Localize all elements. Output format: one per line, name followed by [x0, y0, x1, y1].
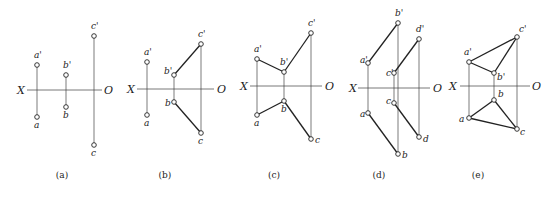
- projection-figure: XOa'ab'bc'c(a)XOa'ab'bc'c(b)XOa'ab'bc'c(…: [0, 0, 547, 197]
- point-label: c': [386, 68, 394, 78]
- edge-line: [284, 101, 311, 139]
- point-label: a': [254, 44, 262, 54]
- point-label: b': [497, 72, 505, 82]
- point-marker: [282, 99, 287, 104]
- point-marker: [396, 21, 401, 26]
- point-marker: [64, 73, 69, 78]
- axis-label-x: X: [239, 80, 249, 93]
- point-label: a': [34, 50, 42, 60]
- point-marker: [64, 105, 69, 110]
- point-marker: [492, 71, 497, 76]
- axis-label-x: X: [126, 83, 136, 96]
- point-label: c: [198, 136, 203, 146]
- point-marker: [515, 35, 520, 40]
- point-marker: [145, 113, 150, 118]
- edge-line: [174, 44, 201, 75]
- edge-line: [368, 113, 398, 154]
- point-marker: [145, 60, 150, 65]
- edge-line: [368, 23, 398, 63]
- point-marker: [35, 63, 40, 68]
- point-marker: [366, 111, 371, 116]
- point-label: c': [519, 24, 527, 34]
- edge-line: [257, 101, 284, 115]
- point-label: c': [308, 18, 316, 28]
- edge-line: [469, 62, 494, 73]
- axis-label-o: O: [217, 83, 226, 96]
- point-label: c: [520, 127, 525, 137]
- point-marker: [282, 70, 287, 75]
- point-marker: [35, 115, 40, 120]
- point-marker: [199, 131, 204, 136]
- point-label: a': [464, 47, 472, 57]
- panel-caption: (a): [56, 170, 68, 180]
- edge-line: [174, 102, 201, 133]
- panel-caption: (b): [159, 170, 172, 180]
- point-label: c: [91, 148, 96, 158]
- point-marker: [255, 57, 260, 62]
- point-marker: [199, 42, 204, 47]
- panel-c: XOa'ab'bc'c(c): [239, 18, 334, 180]
- point-label: d: [423, 134, 429, 144]
- panel-caption: (d): [373, 170, 386, 180]
- point-marker: [172, 100, 177, 105]
- edge-line: [469, 100, 494, 118]
- point-label: c': [91, 21, 99, 31]
- axis-label-x: X: [448, 80, 458, 93]
- point-label: b: [402, 150, 408, 160]
- point-label: a: [34, 120, 39, 130]
- point-label: d': [416, 24, 424, 34]
- point-label: b': [164, 66, 172, 76]
- point-label: a': [144, 47, 152, 57]
- point-label: b: [63, 110, 69, 120]
- point-label: c: [315, 135, 320, 145]
- panel-e: XOa'ab'bc'c(e): [448, 24, 541, 180]
- point-marker: [92, 143, 97, 148]
- point-label: b: [498, 89, 504, 99]
- point-marker: [92, 34, 97, 39]
- point-label: a: [144, 118, 149, 128]
- point-marker: [396, 152, 401, 157]
- point-label: c': [198, 29, 206, 39]
- point-label: b': [63, 60, 71, 70]
- panel-caption: (e): [472, 170, 484, 180]
- point-label: a: [459, 114, 464, 124]
- point-marker: [467, 60, 472, 65]
- panel-d: XOa'ab'bc'cd'd(d): [348, 8, 442, 180]
- panel-b: XOa'ab'bc'c(b): [126, 29, 226, 180]
- panel-a: XOa'ab'bc'c(a): [16, 21, 113, 180]
- point-label: a: [254, 118, 259, 128]
- axis-label-o: O: [325, 80, 334, 93]
- axis-label-o: O: [433, 82, 442, 95]
- point-marker: [309, 31, 314, 36]
- point-label: b: [281, 104, 287, 114]
- point-label: c: [386, 96, 391, 106]
- point-marker: [467, 116, 472, 121]
- point-marker: [172, 73, 177, 78]
- axis-label-x: X: [16, 84, 26, 97]
- axis-label-o: O: [532, 80, 541, 93]
- point-label: a': [360, 55, 368, 65]
- point-marker: [392, 101, 397, 106]
- point-marker: [515, 127, 520, 132]
- point-label: a: [360, 109, 365, 119]
- axis-label-x: X: [348, 82, 358, 95]
- point-marker: [255, 113, 260, 118]
- point-label: b: [165, 98, 171, 108]
- point-marker: [309, 137, 314, 142]
- edge-line: [469, 37, 517, 62]
- point-marker: [492, 98, 497, 103]
- point-label: b': [280, 57, 288, 67]
- point-label: b': [395, 8, 403, 18]
- point-marker: [417, 135, 422, 140]
- point-marker: [417, 37, 422, 42]
- axis-label-o: O: [104, 84, 113, 97]
- panel-caption: (c): [268, 170, 280, 180]
